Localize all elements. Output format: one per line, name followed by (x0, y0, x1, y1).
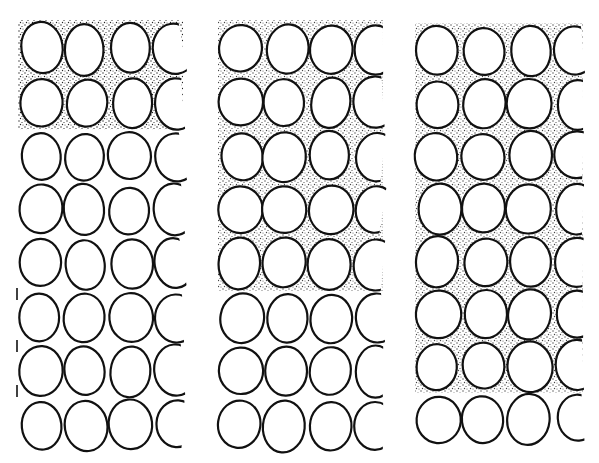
cell-outline (354, 402, 396, 450)
cell-outline (261, 399, 307, 454)
cell-outline (555, 237, 599, 287)
cell-outline (61, 343, 108, 397)
cell-outline (63, 132, 107, 183)
cell-outline (112, 78, 152, 129)
cell-outline (308, 293, 355, 346)
cell-outline (309, 401, 353, 451)
cell-outline (18, 345, 64, 397)
cell-outline (266, 293, 308, 343)
cell-outline (555, 183, 598, 235)
cell-outline (111, 22, 151, 72)
cell-outline (154, 294, 198, 344)
cell-outline (20, 131, 63, 181)
cell-outline (216, 290, 268, 347)
cell-outline (464, 289, 508, 339)
cell-outline (108, 344, 153, 399)
cell-outline (354, 25, 396, 75)
cell-outline (61, 398, 111, 455)
cell-outline (107, 291, 155, 344)
cell-outline (218, 186, 263, 234)
cell-outline (19, 293, 59, 341)
cell-outline (509, 131, 552, 180)
cell-outline (556, 393, 599, 441)
cell-outline (461, 183, 506, 234)
cell-outline (555, 339, 599, 391)
cell-outline (63, 238, 107, 291)
panel-2 (215, 20, 400, 454)
cell-outline (505, 184, 551, 234)
cell-outline (558, 80, 598, 130)
cell-outline (356, 345, 396, 397)
cell-outline (104, 129, 154, 182)
cell-outline (108, 186, 151, 235)
cell-outline (307, 344, 355, 397)
cell-tissue-figure (0, 0, 599, 463)
cell-outline (510, 237, 552, 288)
cell-outline (459, 394, 505, 445)
cell-outline (354, 292, 400, 344)
cell-outline (553, 131, 599, 179)
cell-outline (218, 347, 264, 396)
cell-outline (416, 81, 458, 128)
panel-3 (412, 23, 599, 447)
cell-outline (307, 239, 350, 290)
cell-outline (62, 182, 107, 237)
cell-outline (111, 239, 153, 289)
cell-outline (415, 25, 458, 75)
cell-outline (152, 130, 202, 184)
cell-outline (65, 24, 104, 76)
cell-outline (19, 400, 63, 451)
cell-outline (309, 130, 349, 179)
cell-outline (218, 78, 263, 126)
cell-outline (265, 346, 308, 396)
cell-outline (106, 397, 155, 451)
cell-outline (506, 78, 552, 129)
cell-outline (415, 395, 463, 445)
cell-outline (151, 235, 198, 290)
panels-group (17, 19, 599, 454)
cell-outline (505, 392, 552, 447)
cell-outline (557, 290, 598, 337)
cell-outline (152, 182, 197, 237)
cell-outline (152, 343, 199, 398)
cell-outline (17, 182, 65, 235)
panel-1 (17, 19, 201, 454)
cell-outline (61, 292, 106, 344)
cell-outline (215, 398, 264, 451)
cell-outline (155, 399, 199, 448)
cell-outline (418, 183, 462, 235)
cell-outline (19, 239, 61, 287)
